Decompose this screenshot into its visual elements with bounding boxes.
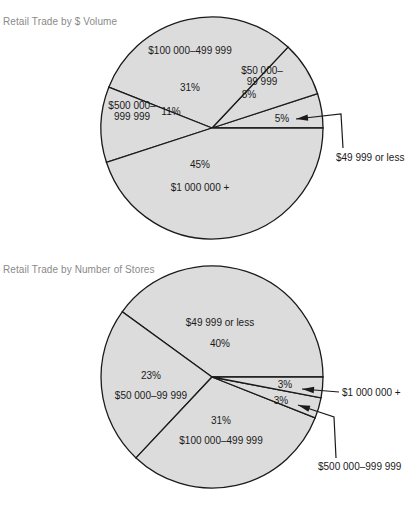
slice-label-50-000-99-999: $50 000–99 999 [115,390,188,401]
slice-label-1-000-000: $1 000 000 + [171,182,230,193]
slice-percent-49-999-or-less: 5% [275,113,290,124]
callout-label-49-999-or-less: $49 999 or less [336,152,404,163]
slice-percent-100-000-499-999: 31% [211,415,231,426]
slice-percent-1-000-000: 45% [190,159,210,170]
slice-label-100-000-499-999: $100 000–499 999 [179,435,263,446]
slice-label-500-000-999-999: $500 000–999 999 [108,100,156,122]
slice-percent-100-000-499-999: 31% [180,82,200,93]
slice-percent-500-000-999-999: 11% [161,106,180,117]
callout-label-500-000-999-999: $500 000–999 999 [318,461,402,472]
slice-label-100-000-499-999: $100 000–499 999 [148,45,232,56]
slice-percent-500-000-999-999: 3% [274,395,289,406]
slice-label-49-999-or-less: $49 999 or less [186,317,254,328]
slice-percent-1-000-000: 3% [278,379,293,390]
slice-percent-49-999-or-less: 40% [210,338,230,349]
slice-percent-50-000-99-999: 23% [141,370,161,381]
callout-label-1-000-000: $1 000 000 + [342,387,401,398]
slice-percent-50-000-99-999: 8% [242,89,257,100]
pie-charts: $50 000–99 9998%$100 000–499 99931%$500 … [0,0,416,505]
slice-label-50-000-99-999: $50 000–99 999 [241,65,283,87]
